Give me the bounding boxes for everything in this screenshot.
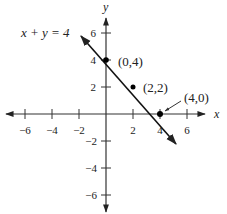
point-2-2 — [131, 85, 136, 90]
point-0-4 — [103, 57, 109, 63]
x-tick-label: 2 — [130, 124, 136, 136]
y-tick-label: −2 — [85, 135, 97, 147]
equation-label: x + y = 4 — [20, 25, 70, 40]
x-tick-label: 6 — [184, 124, 190, 136]
point-4-0 — [157, 111, 163, 117]
x-axis-label: x — [213, 107, 220, 121]
point-label-4-0: (4,0) — [184, 90, 209, 105]
y-axis-label: y — [102, 0, 109, 14]
y-tick-label: 4 — [91, 54, 97, 66]
graph-canvas: −6 −4 −2 2 4 6 6 4 2 −2 −4 −6 x y x + y … — [0, 0, 227, 214]
y-tick-label: 2 — [91, 81, 97, 93]
x-tick-label: −4 — [46, 124, 58, 136]
point-label-0-4: (0,4) — [118, 54, 143, 69]
x-tick-label: −6 — [19, 124, 31, 136]
y-tick-label: −6 — [85, 189, 97, 201]
x-tick-label: −2 — [73, 124, 85, 136]
leader-arrow-icon — [165, 101, 181, 111]
y-tick-label: −4 — [85, 162, 97, 174]
point-label-2-2: (2,2) — [143, 80, 168, 95]
y-tick-label: 6 — [91, 27, 97, 39]
